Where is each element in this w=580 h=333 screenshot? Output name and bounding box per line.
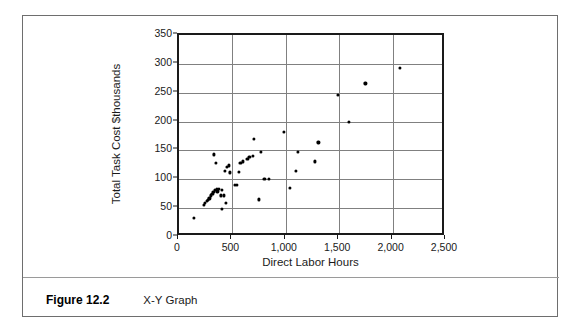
y-axis-title: Total Task Cost $thousands: [109, 33, 123, 235]
figure-caption-text: X-Y Graph: [143, 294, 197, 306]
data-point: [257, 198, 260, 201]
x-tick-label: 0: [174, 241, 180, 253]
gridline-vertical: [393, 35, 394, 233]
data-point: [220, 189, 223, 192]
data-point: [224, 169, 227, 172]
caption-divider: [23, 277, 559, 278]
gridline-vertical: [232, 35, 233, 233]
x-tick-mark: [444, 235, 445, 239]
plot-area: [177, 33, 444, 235]
data-point: [224, 201, 227, 204]
gridline-horizontal: [179, 64, 442, 65]
y-tick-label: 300: [154, 56, 172, 68]
y-tick-label: 350: [154, 27, 172, 39]
data-point: [192, 216, 195, 219]
gridline-horizontal: [179, 150, 442, 151]
gridline-vertical: [286, 35, 287, 233]
data-point: [251, 154, 254, 157]
x-tick-label: 1,500: [324, 241, 350, 253]
figure-label: Figure 12.2: [46, 293, 109, 307]
data-point: [347, 121, 350, 124]
x-tick-mark: [230, 235, 231, 239]
x-tick-mark: [337, 235, 338, 239]
chart-region: 050100150200250300350 Total Task Cost $t…: [23, 16, 559, 278]
gridline-horizontal: [179, 122, 442, 123]
x-tick-mark: [391, 235, 392, 239]
data-point: [288, 186, 291, 189]
data-point: [241, 160, 244, 163]
gridline-horizontal: [179, 208, 442, 209]
y-tick-label: 100: [154, 171, 172, 183]
figure-frame: 050100150200250300350 Total Task Cost $t…: [22, 15, 558, 317]
x-tick-mark: [177, 235, 178, 239]
data-point: [222, 194, 225, 197]
x-tick-label: 2,000: [377, 241, 403, 253]
data-point: [216, 190, 219, 193]
x-tick-label: 1,000: [271, 241, 297, 253]
data-point: [398, 66, 401, 69]
y-tick-label: 250: [154, 85, 172, 97]
data-point: [214, 162, 217, 165]
data-point: [282, 130, 285, 133]
x-tick-label: 500: [222, 241, 240, 253]
x-tick-mark: [284, 235, 285, 239]
x-axis-tick-labels: 05001,0001,5002,0002,500: [177, 235, 444, 255]
data-point: [236, 183, 239, 186]
figure-caption-row: Figure 12.2 X-Y Graph: [23, 288, 559, 312]
x-tick-label: 2,500: [431, 241, 457, 253]
y-axis-tick-labels: 050100150200250300350: [123, 33, 172, 235]
y-tick-label: 150: [154, 142, 172, 154]
data-point: [208, 197, 211, 200]
gridline-vertical: [339, 35, 340, 233]
y-tick-label: 200: [154, 114, 172, 126]
data-point: [313, 160, 316, 163]
data-point: [294, 170, 297, 173]
data-point: [221, 207, 224, 210]
data-point: [252, 137, 255, 140]
data-point: [267, 178, 270, 181]
data-point: [296, 151, 299, 154]
data-point: [228, 164, 231, 167]
y-tick-label: 0: [166, 229, 172, 241]
data-point: [213, 153, 216, 156]
y-tick-label: 50: [160, 200, 172, 212]
data-point: [260, 151, 263, 154]
data-point: [364, 82, 367, 85]
x-axis-title: Direct Labor Hours: [177, 256, 444, 268]
data-point: [229, 171, 232, 174]
gridline-horizontal: [179, 93, 442, 94]
data-point: [237, 170, 240, 173]
gridline-horizontal: [179, 179, 442, 180]
data-point: [317, 141, 320, 144]
